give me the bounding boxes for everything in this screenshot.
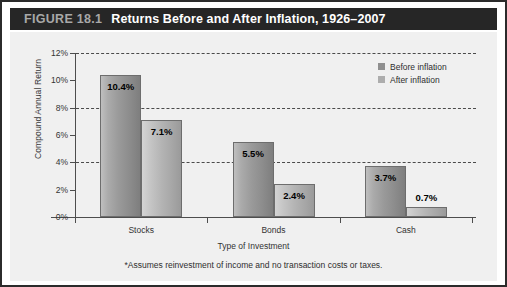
bar-bonds-before-inflation: 5.5% xyxy=(233,142,274,217)
bar-cash-before-inflation: 3.7% xyxy=(365,166,406,217)
x-tick-mark xyxy=(75,217,76,223)
bar-value-label: 7.1% xyxy=(142,126,181,137)
legend-item-after-inflation: After inflation xyxy=(378,73,447,86)
y-tick-label: 2% xyxy=(40,185,68,195)
bar-value-label: 10.4% xyxy=(101,81,140,92)
x-category-label-cash: Cash xyxy=(396,225,416,235)
y-tick-label: 8% xyxy=(40,103,68,113)
figure-title: Returns Before and After Inflation, 1926… xyxy=(111,12,385,26)
x-category-label-bonds: Bonds xyxy=(261,225,285,235)
legend-swatch-icon xyxy=(378,76,385,83)
figure-footnote: *Assumes reinvestment of income and no t… xyxy=(10,260,497,270)
bar-value-label: 3.7% xyxy=(366,172,405,183)
bar-value-label: 0.7% xyxy=(407,192,446,203)
bar-stocks-before-inflation: 10.4% xyxy=(100,75,141,217)
legend-label: Before inflation xyxy=(390,62,447,72)
legend-label: After inflation xyxy=(390,75,440,85)
legend-item-before-inflation: Before inflation xyxy=(378,60,447,73)
x-tick-mark xyxy=(340,217,341,223)
bar-value-label: 5.5% xyxy=(234,148,273,159)
bar-value-label: 2.4% xyxy=(275,190,314,201)
x-category-label-stocks: Stocks xyxy=(128,225,154,235)
x-tick-mark xyxy=(472,217,473,223)
legend-swatch-icon xyxy=(378,63,385,70)
figure-number: FIGURE 18.1 xyxy=(24,12,102,26)
bar-bonds-after-inflation: 2.4% xyxy=(274,184,315,217)
y-tick-label: 4% xyxy=(40,157,68,167)
figure-frame: FIGURE 18.1 Returns Before and After Inf… xyxy=(0,0,507,287)
x-tick-mark xyxy=(207,217,208,223)
y-tick-label: 6% xyxy=(40,130,68,140)
x-axis-title: Type of Investment xyxy=(10,241,497,251)
figure-header-bar: FIGURE 18.1 Returns Before and After Inf… xyxy=(10,8,497,30)
bar-cash-after-inflation: 0.7% xyxy=(406,207,447,217)
chart-canvas: Compound Annual Return 0%2%4%6%8%10%12% … xyxy=(10,32,497,281)
x-axis-line xyxy=(51,217,476,218)
y-tick-label: 10% xyxy=(40,75,68,85)
chart-legend: Before inflationAfter inflation xyxy=(378,60,447,86)
y-tick-label: 12% xyxy=(40,48,68,58)
y-tick-label: 0% xyxy=(40,212,68,222)
bar-stocks-after-inflation: 7.1% xyxy=(141,120,182,217)
